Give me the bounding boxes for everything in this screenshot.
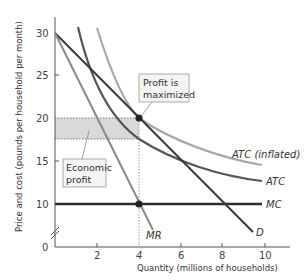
x-ticks — [97, 243, 265, 247]
monopoly-profit-chart: 30 25 20 15 10 0 2 4 6 8 10 Quantity (mi… — [0, 0, 308, 280]
econ-profit-text-2: profit — [66, 174, 92, 185]
profit-max-pointer — [142, 102, 152, 115]
x-tick-6: 6 — [178, 250, 184, 261]
x-tick-8: 8 — [219, 250, 225, 261]
x-tick-4: 4 — [136, 250, 142, 261]
profit-max-text-1: Profit is — [143, 77, 178, 88]
y-tick-15: 15 — [36, 156, 49, 167]
y-tick-20: 20 — [36, 113, 49, 124]
mc-label: MC — [266, 199, 282, 210]
y-tick-0: 0 — [42, 242, 48, 253]
mr-mc-intersection-point — [135, 200, 142, 207]
x-tick-10: 10 — [259, 250, 272, 261]
d-label: D — [256, 227, 264, 238]
econ-profit-text-1: Economic — [66, 162, 112, 173]
y-axis-label: Price and cost (pounds per household per… — [14, 21, 24, 232]
x-tick-2: 2 — [94, 250, 100, 261]
atc-label: ATC — [265, 176, 285, 187]
x-axis-label: Quantity (millions of households) — [137, 263, 278, 273]
atc-inflated-label: ATC (inflated) — [231, 149, 300, 160]
profit-max-point — [135, 114, 142, 121]
mr-label: MR — [146, 230, 162, 241]
y-tick-30: 30 — [36, 28, 49, 39]
profit-max-text-2: maximized — [143, 89, 195, 100]
y-tick-10: 10 — [36, 199, 49, 210]
y-tick-25: 25 — [36, 70, 49, 81]
